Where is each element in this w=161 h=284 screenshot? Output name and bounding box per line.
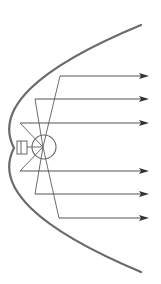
lamp-socket xyxy=(17,141,27,154)
parabolic-reflector-diagram xyxy=(0,0,161,284)
incident-ray-1 xyxy=(43,76,60,147)
parabolic-reflector-curve xyxy=(9,25,141,272)
arrowheads xyxy=(139,73,149,221)
socket-rect xyxy=(17,141,27,154)
incident-ray-6 xyxy=(43,147,59,218)
incident-rays xyxy=(20,76,60,218)
